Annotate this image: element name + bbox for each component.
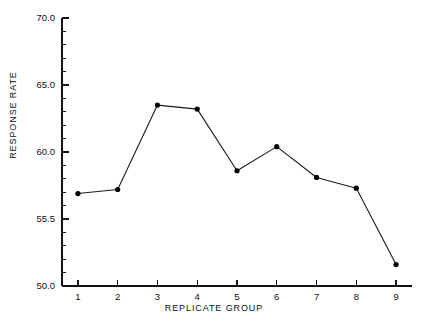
data-point-marker	[393, 262, 398, 267]
data-series-layer	[75, 103, 398, 268]
y-tick-label: 50.0	[15, 280, 55, 291]
x-tick-label: 5	[227, 291, 247, 302]
data-point-marker	[75, 191, 80, 196]
data-line	[78, 105, 396, 264]
x-tick-label: 9	[386, 291, 406, 302]
data-point-marker	[354, 186, 359, 191]
data-point-marker	[234, 168, 239, 173]
x-tick-label: 4	[187, 291, 207, 302]
axes-layer	[62, 18, 412, 286]
plot-area	[0, 0, 428, 324]
data-point-marker	[274, 144, 279, 149]
y-tick-label: 65.0	[15, 79, 55, 90]
x-tick-label: 2	[108, 291, 128, 302]
x-tick-label: 7	[307, 291, 327, 302]
data-point-marker	[115, 187, 120, 192]
data-point-marker	[314, 175, 319, 180]
y-tick-label: 70.0	[15, 12, 55, 23]
y-tick-label: 55.5	[15, 213, 55, 224]
x-tick-label: 3	[147, 291, 167, 302]
x-tick-label: 6	[267, 291, 287, 302]
tick-marks-layer	[62, 18, 396, 286]
y-tick-label: 60.0	[15, 146, 55, 157]
chart-container: RESPONSE RATE REPLICATE GROUP 70.065.060…	[0, 0, 428, 324]
x-tick-label: 8	[346, 291, 366, 302]
data-point-marker	[195, 107, 200, 112]
x-tick-label: 1	[68, 291, 88, 302]
data-point-marker	[155, 103, 160, 108]
